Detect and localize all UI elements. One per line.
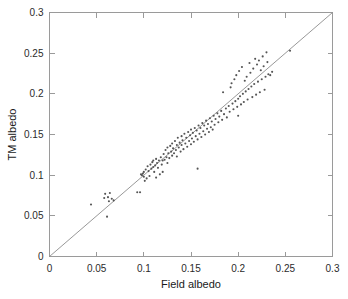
data-point (255, 94, 257, 96)
data-point (176, 155, 178, 157)
data-point (189, 134, 191, 136)
data-point (166, 162, 168, 164)
data-point (185, 137, 187, 139)
data-point (181, 144, 183, 146)
data-point (237, 98, 239, 100)
data-point (197, 168, 199, 170)
data-point (289, 50, 291, 52)
x-tick-label: 0.2 (231, 263, 245, 274)
data-point (179, 142, 181, 144)
scatter-chart: 00.050.10.150.20.250.300.050.10.150.20.2… (0, 0, 348, 299)
data-point (264, 89, 266, 91)
data-point (149, 164, 151, 166)
data-point (155, 177, 157, 179)
x-tick-label: 0.25 (276, 263, 296, 274)
data-point (240, 103, 242, 105)
data-point (172, 147, 174, 149)
data-point (147, 165, 149, 167)
data-point (176, 144, 178, 146)
data-point (251, 96, 253, 98)
data-point (267, 73, 269, 75)
data-point (221, 119, 223, 121)
y-tick-label: 0.1 (30, 170, 44, 181)
data-point (177, 137, 179, 139)
data-point (148, 170, 150, 172)
data-point (103, 197, 105, 199)
data-point (107, 196, 109, 198)
data-point (230, 86, 232, 88)
data-point (265, 51, 267, 53)
data-point (158, 159, 160, 161)
data-point (155, 158, 157, 160)
data-point (163, 153, 165, 155)
data-point (198, 125, 200, 127)
data-point (247, 98, 249, 100)
data-point (113, 199, 115, 201)
data-point (254, 58, 256, 60)
data-point (159, 173, 161, 175)
data-point (198, 133, 200, 135)
data-point (262, 55, 264, 57)
data-point (269, 74, 271, 76)
data-point (145, 168, 147, 170)
data-point (178, 146, 180, 148)
data-point (167, 152, 169, 154)
data-point (204, 133, 206, 135)
data-point (247, 88, 249, 90)
data-point (260, 69, 262, 71)
data-point (231, 82, 233, 84)
data-point (212, 129, 214, 131)
data-point (193, 141, 195, 143)
data-point (231, 103, 233, 105)
data-point (228, 105, 230, 107)
data-point (218, 116, 220, 118)
data-point (200, 136, 202, 138)
data-point (154, 164, 156, 166)
data-point (143, 176, 145, 178)
data-point (181, 135, 183, 137)
data-point (184, 142, 186, 144)
data-point (194, 127, 196, 129)
data-point (109, 192, 111, 194)
data-point (173, 152, 175, 154)
data-point (108, 200, 110, 202)
data-point (241, 66, 243, 68)
data-point (236, 106, 238, 108)
data-point (197, 138, 199, 140)
data-point (250, 85, 252, 87)
data-point (239, 95, 241, 97)
data-point (202, 130, 204, 132)
data-point (153, 171, 155, 173)
data-point (180, 151, 182, 153)
data-point (264, 76, 266, 78)
y-tick-label: 0.05 (24, 210, 44, 221)
data-point (152, 159, 154, 161)
data-point (181, 139, 183, 141)
data-point (237, 115, 239, 117)
data-point (233, 78, 235, 80)
data-point (205, 120, 207, 122)
data-point (199, 127, 201, 129)
data-point (201, 122, 203, 124)
data-point (169, 145, 171, 147)
data-point (164, 149, 166, 151)
y-tick-label: 0.25 (24, 48, 44, 59)
data-point (209, 117, 211, 119)
data-point (148, 175, 150, 177)
data-point (216, 112, 218, 114)
data-point (174, 140, 176, 142)
data-point (252, 68, 254, 70)
data-point (190, 143, 192, 145)
data-point (214, 118, 216, 120)
data-point (235, 74, 237, 76)
y-tick-label: 0.3 (30, 7, 44, 18)
data-point (162, 159, 164, 161)
data-point (190, 129, 192, 131)
x-tick-label: 0.1 (137, 263, 151, 274)
data-point (248, 62, 250, 64)
data-point (90, 203, 92, 205)
data-point (261, 78, 263, 80)
data-point (164, 159, 166, 161)
data-point (183, 133, 185, 135)
data-point (195, 135, 197, 137)
